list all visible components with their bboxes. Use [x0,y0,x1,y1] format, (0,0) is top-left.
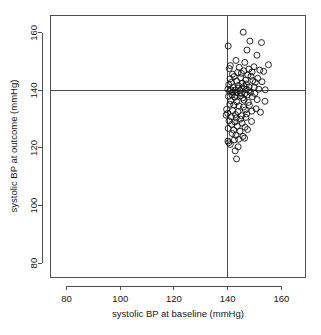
x-tick-label: 80 [61,293,72,304]
data-point [233,57,239,63]
y-tick-label: 160 [28,25,39,41]
plot-frame [51,16,306,278]
y-axis: 80100120140160 [28,25,42,269]
data-point [257,67,263,73]
data-point [247,38,253,44]
data-point [261,68,267,74]
data-point [242,59,248,65]
data-point [258,40,264,46]
y-tick-label: 140 [28,82,39,98]
plot-canvas: 80100120140160 80100120140160 systolic B… [0,0,321,335]
data-point [242,135,248,141]
x-tick-label: 120 [166,293,182,304]
data-point [229,131,235,137]
x-tick-label: 140 [220,293,236,304]
data-point [257,109,263,115]
y-tick-label: 120 [28,140,39,156]
data-point [225,43,231,49]
y-tick-label: 80 [28,258,39,269]
data-point [240,133,246,139]
data-point [249,118,255,124]
y-axis-title: systolic BP at outcome (mmHg) [8,80,19,213]
reference-lines [51,16,306,278]
data-point [254,97,260,103]
data-point [259,79,265,85]
data-point [254,52,260,58]
data-point [240,29,246,35]
data-point [262,98,268,104]
data-point [234,156,240,162]
data-points-layer [223,29,271,162]
x-axis: 80100120140160 [61,286,289,304]
data-point [235,144,241,150]
x-axis-title: systolic BP at baseline (mmHg) [112,308,244,319]
y-tick-label: 100 [28,198,39,214]
data-point [262,87,268,93]
data-point [224,106,230,112]
data-point [265,62,271,68]
x-tick-label: 100 [112,293,128,304]
x-tick-label: 160 [273,293,289,304]
scatter-plot-figure: 80100120140160 80100120140160 systolic B… [0,0,321,335]
data-point [244,47,250,53]
data-point [232,148,238,154]
